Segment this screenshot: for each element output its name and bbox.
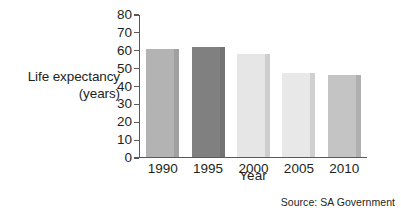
- bar-1995[interactable]: [192, 47, 225, 157]
- bar-shadow: [356, 75, 361, 156]
- y-axis-tick-label: 0: [124, 151, 132, 165]
- source-note: Source: SA Government: [281, 196, 395, 208]
- y-axis-tick-label: 50: [117, 62, 132, 76]
- y-axis-tick: [134, 14, 139, 15]
- y-axis-title-line-1: Life expectancy: [8, 68, 120, 85]
- y-axis-tick-label: 70: [117, 26, 132, 40]
- bar-slot: [237, 15, 270, 157]
- bar-2000[interactable]: [237, 54, 270, 157]
- y-axis-tick: [134, 157, 139, 158]
- y-axis-tick: [134, 32, 139, 33]
- y-axis-tick-label: 40: [117, 80, 132, 94]
- y-axis-tick-label: 10: [117, 133, 132, 147]
- bar-series: [140, 15, 367, 157]
- x-axis-title: Year: [139, 168, 367, 183]
- y-axis-tick-label: 30: [117, 98, 132, 112]
- y-axis-tick: [134, 86, 139, 87]
- y-axis-tick: [134, 140, 139, 141]
- y-axis-title: Life expectancy (years): [8, 68, 120, 102]
- y-axis-tick: [134, 122, 139, 123]
- bar-shadow: [310, 73, 315, 156]
- bar-slot: [282, 15, 315, 157]
- bar-1990[interactable]: [146, 49, 179, 157]
- bar-shadow: [220, 47, 225, 157]
- bar-2010[interactable]: [328, 75, 361, 156]
- plot-area: 01020304050607080 19901995200020052010: [139, 15, 367, 158]
- y-axis-tick-label: 60: [117, 44, 132, 58]
- y-axis-tick: [134, 104, 139, 105]
- y-axis-tick: [134, 50, 139, 51]
- chart-figure: Life expectancy (years) 0102030405060708…: [0, 0, 401, 222]
- x-axis-line: [139, 157, 367, 158]
- bar-shadow: [265, 54, 270, 157]
- y-axis-tick-label: 80: [117, 8, 132, 22]
- bar-2005[interactable]: [282, 73, 315, 156]
- y-axis-tick: [134, 68, 139, 69]
- bar-slot: [192, 15, 225, 157]
- y-axis-title-line-2: (years): [8, 85, 120, 102]
- y-axis-tick-label: 20: [117, 116, 132, 130]
- bar-slot: [328, 15, 361, 157]
- bar-slot: [146, 15, 179, 157]
- bar-shadow: [174, 49, 179, 157]
